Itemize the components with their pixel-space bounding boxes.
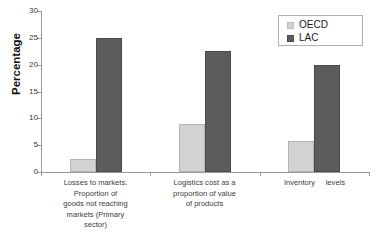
y-tick-label: 5 — [12, 139, 38, 150]
legend-label-oecd: OECD — [299, 19, 328, 31]
category-label-line: sector) — [41, 220, 150, 231]
category-label-line: proportion of value — [150, 189, 259, 200]
category-label-line: Losses to markets. — [41, 178, 150, 189]
legend-label-lac: LAC — [299, 32, 318, 44]
category-label-line: of products — [150, 199, 259, 210]
legend-swatch-oecd-icon — [287, 22, 294, 29]
x-axis-line — [41, 172, 369, 173]
x-tick-mark — [150, 172, 151, 176]
legend-swatch-lac-icon — [287, 35, 294, 42]
y-tick-label: 0 — [12, 166, 38, 177]
x-tick-mark — [260, 172, 261, 176]
y-tick-label: 30 — [12, 5, 38, 16]
category-label-line: Inventory levels — [260, 178, 369, 189]
legend-item-lac: LAC — [287, 32, 362, 44]
x-tick-mark — [369, 172, 370, 176]
category-label-line: Proportion of — [41, 189, 150, 200]
category-label-line: Logistics cost as a — [150, 178, 259, 189]
category-label-2: Logistics cost as aproportion of valueof… — [150, 178, 259, 210]
x-tick-mark — [41, 172, 42, 176]
y-tick-label: 25 — [12, 32, 38, 43]
bar-lac-group-2 — [205, 51, 231, 172]
y-tick-label: 10 — [12, 112, 38, 123]
y-tick-label: 15 — [12, 86, 38, 97]
bar-lac-group-3 — [314, 65, 340, 172]
bar-chart: Percentage 302520151050 Losses to market… — [0, 0, 379, 240]
legend: OECD LAC — [278, 15, 363, 46]
bar-oecd-group-2 — [179, 124, 205, 172]
category-label-3: Inventory levels — [260, 178, 369, 189]
category-label-line: goods not reaching — [41, 199, 150, 210]
y-tick-label: 20 — [12, 59, 38, 70]
bar-lac-group-1 — [96, 38, 122, 172]
category-label-1: Losses to markets.Proportion ofgoods not… — [41, 178, 150, 231]
legend-item-oecd: OECD — [287, 19, 362, 31]
category-label-line: markets (Primary — [41, 210, 150, 221]
bar-oecd-group-3 — [288, 141, 314, 172]
bar-oecd-group-1 — [70, 159, 96, 172]
